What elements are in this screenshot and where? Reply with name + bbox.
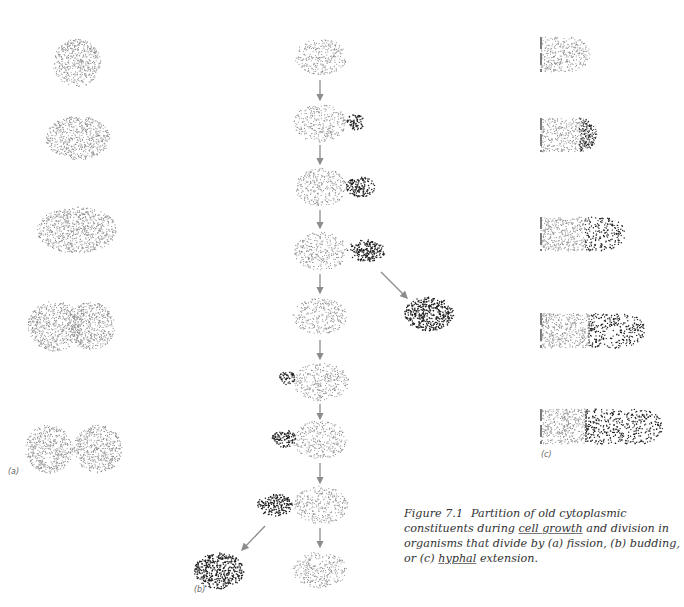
- figure-caption: Figure 7.1Partition of old cytoplasmic c…: [404, 506, 684, 566]
- arrow-icon: [242, 526, 265, 550]
- fission-cell: [28, 301, 82, 351]
- panel-label-a: (a): [8, 467, 19, 476]
- hypha-stage-3: [541, 216, 625, 251]
- old-mother-cell: [293, 363, 349, 402]
- hyphal-panel: [540, 37, 663, 445]
- new-bud-cell: [257, 494, 293, 517]
- fission-cell: [53, 39, 101, 87]
- new-bud-cell: [279, 372, 295, 386]
- budding-arrows: [242, 80, 407, 550]
- old-mother-cell: [295, 39, 346, 75]
- new-bud-cell: [347, 239, 385, 262]
- fission-cell: [25, 425, 73, 473]
- fission-panel: [25, 39, 122, 474]
- fission-cell: [67, 302, 115, 350]
- arrow-icon: [381, 272, 407, 298]
- old-mother-cell: [294, 232, 347, 270]
- figure-number: Figure 7.1: [404, 507, 463, 520]
- old-mother-cell: [293, 298, 348, 334]
- new-bud-cell: [272, 430, 297, 448]
- fission-cell: [74, 425, 123, 474]
- old-mother-cell: [294, 486, 349, 524]
- hypha-stage-1: [540, 37, 590, 73]
- fission-cell: [37, 206, 116, 252]
- fission-cell: [46, 116, 110, 160]
- panel-label-c: (c): [541, 450, 552, 459]
- panel-label-b: (b): [194, 585, 205, 594]
- old-mother-cell: [293, 552, 347, 588]
- old-mother-cell: [296, 168, 347, 206]
- new-bud-cell: [346, 114, 363, 130]
- hypha-stage-5: [541, 408, 663, 444]
- hypha-stage-4: [540, 313, 644, 349]
- new-bud-cell: [346, 176, 375, 197]
- hypha-stage-2: [541, 118, 598, 153]
- new-bud-cell: [194, 552, 245, 589]
- new-bud-cell: [404, 297, 454, 332]
- old-mother-cell: [293, 421, 348, 459]
- old-mother-cell: [294, 105, 346, 143]
